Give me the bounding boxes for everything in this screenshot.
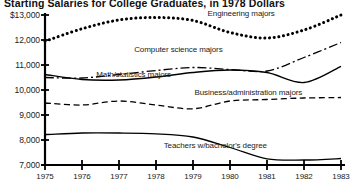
series-label: Computer science majors <box>134 45 222 54</box>
series-label: Math/statistics majors <box>96 70 171 79</box>
series-label: Business/administration majors <box>195 88 303 97</box>
series-line <box>45 98 341 109</box>
series-line <box>45 15 341 41</box>
x-axis-label: 1982 <box>289 172 319 181</box>
x-axis-label: 1983 <box>326 172 352 181</box>
y-axis-label: 11,000 <box>0 60 40 70</box>
x-axis-label: 1979 <box>178 172 208 181</box>
y-axis-label: 7,000 <box>0 160 40 170</box>
y-axis-label: 12,000 <box>0 35 40 45</box>
series-label: Teachers w/bachelor's degree <box>164 141 267 150</box>
x-axis-label: 1975 <box>30 172 60 181</box>
x-axis-label: 1976 <box>67 172 97 181</box>
series-label: Engineering majors <box>208 9 275 18</box>
x-axis-label: 1977 <box>104 172 134 181</box>
y-axis-label: 10,000 <box>0 85 40 95</box>
x-axis-label: 1981 <box>252 172 282 181</box>
y-axis-label: 8,000 <box>0 135 40 145</box>
series-line <box>45 66 341 82</box>
y-axis-label: 9,000 <box>0 110 40 120</box>
x-axis-label: 1978 <box>141 172 171 181</box>
x-axis-label: 1980 <box>215 172 245 181</box>
chart-container: Starting Salaries for College Graduates,… <box>0 0 352 183</box>
y-axis-label: $13,000 <box>0 10 40 20</box>
